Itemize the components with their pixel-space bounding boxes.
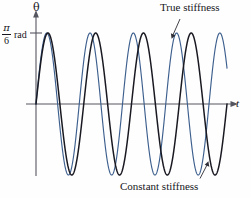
constant-stiffness-annotation: Constant stiffness	[120, 181, 198, 192]
y-axis-label: θ	[33, 2, 40, 13]
fraction-denominator: 6	[3, 36, 10, 46]
fraction-numerator: π	[2, 23, 11, 33]
tick-unit-label: rad	[14, 30, 27, 40]
pi-over-six-fraction: π 6	[2, 23, 11, 46]
oscillation-figure: θ t π 6 rad True stiffness Constant stif…	[0, 0, 251, 198]
constant-stiffness-arrowhead	[205, 161, 210, 167]
plot-canvas	[0, 0, 251, 198]
true-stiffness-annotation: True stiffness	[160, 2, 220, 13]
x-axis-label: t	[236, 98, 239, 109]
y-axis-tick-label: π 6 rad	[2, 23, 27, 46]
